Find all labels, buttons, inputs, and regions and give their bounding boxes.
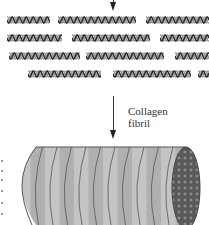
label-line-2: fibril: [128, 117, 168, 129]
fibril-end-cap: [172, 147, 200, 225]
triple-helix-molecule: [58, 16, 136, 24]
triple-helix-molecule: [28, 70, 101, 78]
collagen-fibril-label: Collagen fibril: [128, 105, 168, 129]
triple-helix-molecule: [7, 16, 50, 24]
triple-helix-molecule: [113, 70, 191, 78]
left-edge-dots: [1, 160, 3, 220]
fibril-arrow-head: [110, 130, 116, 139]
triple-helix-molecule: [7, 34, 62, 42]
fibril-svg: [20, 143, 209, 225]
triple-helix-molecule: [86, 52, 164, 60]
label-line-1: Collagen: [128, 105, 168, 117]
triple-helix-molecule: [160, 34, 209, 42]
collagen-fibril-cylinder: [20, 143, 209, 225]
triple-helix-molecule: [198, 70, 209, 78]
triple-helix-molecule: [9, 52, 80, 60]
top-arrow-head: [110, 2, 116, 11]
triple-helix-molecule: [175, 52, 209, 60]
triple-helix-molecule: [72, 34, 150, 42]
fibril-arrow-shaft: [113, 96, 114, 132]
triple-helix-molecule: [146, 16, 209, 24]
